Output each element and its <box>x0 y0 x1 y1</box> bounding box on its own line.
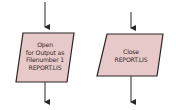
open-line-3: Filenumber 1 <box>18 56 72 64</box>
open-line-4: REPORT.LIS <box>18 64 72 72</box>
close-line-2: REPORT.LIS <box>102 56 160 64</box>
close-line-1: Close <box>102 48 160 56</box>
close-node-label: Close REPORT.LIS <box>102 48 160 63</box>
open-line-2: for Output as <box>18 49 72 57</box>
open-node-label: Open for Output as Filenumber 1 REPORT.L… <box>18 41 72 71</box>
open-line-1: Open <box>18 41 72 49</box>
